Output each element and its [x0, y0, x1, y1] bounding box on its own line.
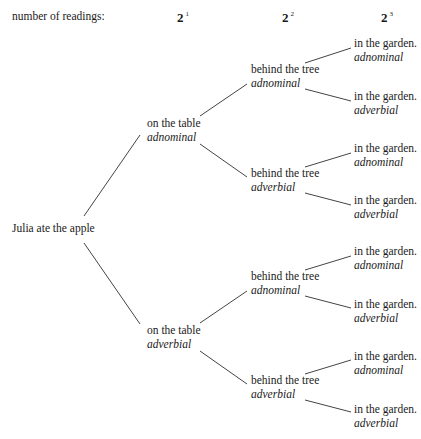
- l3-leaf-phrase: in the garden.: [354, 37, 417, 50]
- edge-l2d-l3h: [305, 400, 351, 412]
- edge-l2c-l3e: [305, 256, 351, 270]
- l2-node-phrase: behind the tree: [251, 63, 319, 76]
- edge-l2c-l3f: [305, 296, 351, 308]
- l2-node-phrase: behind the tree: [251, 167, 319, 180]
- l3-leaf-phrase: in the garden.: [354, 194, 417, 207]
- edge-l2a-l3a: [305, 48, 351, 63]
- l2-node-reading: adnominal: [251, 77, 300, 90]
- l2-node-reading: adnominal: [251, 284, 300, 297]
- l3-leaf-phrase: in the garden.: [354, 245, 417, 258]
- edge-l1b-l2d: [200, 351, 247, 384]
- l3-leaf-phrase: in the garden.: [354, 142, 417, 155]
- edge-l2d-l3g: [305, 360, 351, 374]
- l3-leaf-reading: adverbial: [354, 417, 398, 430]
- edge-l1a-l2b: [200, 144, 247, 177]
- l2-node-reading: adverbial: [251, 181, 295, 194]
- l3-leaf-reading: adverbial: [354, 312, 398, 325]
- l3-leaf-reading: adverbial: [354, 104, 398, 117]
- edge-l2b-l3d: [305, 193, 351, 205]
- edge-root-l1b: [84, 243, 140, 324]
- l3-leaf-reading: adnominal: [354, 156, 403, 169]
- l2-node-phrase: behind the tree: [251, 270, 319, 283]
- l3-leaf-phrase: in the garden.: [354, 350, 417, 363]
- l1-node-phrase: on the table: [147, 324, 201, 337]
- l3-leaf-reading: adnominal: [354, 51, 403, 64]
- l1-node-reading: adverbial: [147, 338, 191, 351]
- edge-l2b-l3c: [305, 153, 351, 167]
- l3-leaf-reading: adnominal: [354, 259, 403, 272]
- l2-node-phrase: behind the tree: [251, 374, 319, 387]
- l3-leaf-reading: adverbial: [354, 208, 398, 221]
- root-sentence: Julia ate the apple: [12, 222, 95, 235]
- l2-node-reading: adverbial: [251, 388, 295, 401]
- l3-leaf-phrase: in the garden.: [354, 90, 417, 103]
- edge-l2a-l3b: [305, 89, 351, 101]
- edge-root-l1a: [84, 135, 140, 216]
- l3-leaf-phrase: in the garden.: [354, 403, 417, 416]
- l3-leaf-reading: adnominal: [354, 364, 403, 377]
- l3-leaf-phrase: in the garden.: [354, 298, 417, 311]
- l1-node-phrase: on the table: [147, 117, 201, 130]
- edge-l1a-l2a: [200, 84, 247, 116]
- edge-l1b-l2c: [200, 291, 247, 323]
- l1-node-reading: adnominal: [147, 131, 196, 144]
